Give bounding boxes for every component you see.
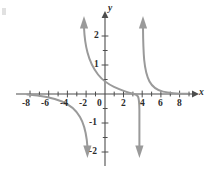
curve-right-branch: [143, 28, 188, 94]
x-tick-label-zero: 0: [97, 99, 102, 109]
x-tick-label-neg2: -2: [79, 99, 87, 109]
curve-middle-branch-upper: [84, 28, 139, 147]
curve-middle-arrowhead-up: [80, 16, 88, 29]
x-tick-label-neg8: -8: [22, 99, 30, 109]
curve-middle-arrowhead-down: [135, 146, 143, 158]
x-tick-label-8: 8: [177, 99, 182, 109]
curve-right-arrowhead-up: [139, 16, 147, 29]
x-tick-label-2: 2: [121, 99, 126, 109]
y-tick-label-neg2: -2: [89, 147, 97, 157]
y-tick-label-2: 2: [94, 31, 99, 41]
x-tick-label-4: 4: [140, 99, 145, 109]
axes-group: [16, 11, 199, 166]
graph-figure: -8 -6 -4 -2 0 2 4 6 8 2 1 -1 -2 x y: [0, 0, 211, 174]
y-tick-label-neg1: -1: [89, 118, 97, 128]
y-tick-label-1: 1: [94, 60, 99, 70]
x-tick-label-6: 6: [158, 99, 163, 109]
x-axis-name: x: [199, 88, 204, 98]
x-tick-label-neg6: -6: [41, 99, 49, 109]
plot-canvas: [0, 0, 211, 174]
x-axis-arrowhead: [192, 90, 199, 97]
y-axis-name: y: [108, 4, 112, 14]
function-curve-group: [27, 16, 187, 158]
x-tick-label-neg4: -4: [60, 99, 68, 109]
